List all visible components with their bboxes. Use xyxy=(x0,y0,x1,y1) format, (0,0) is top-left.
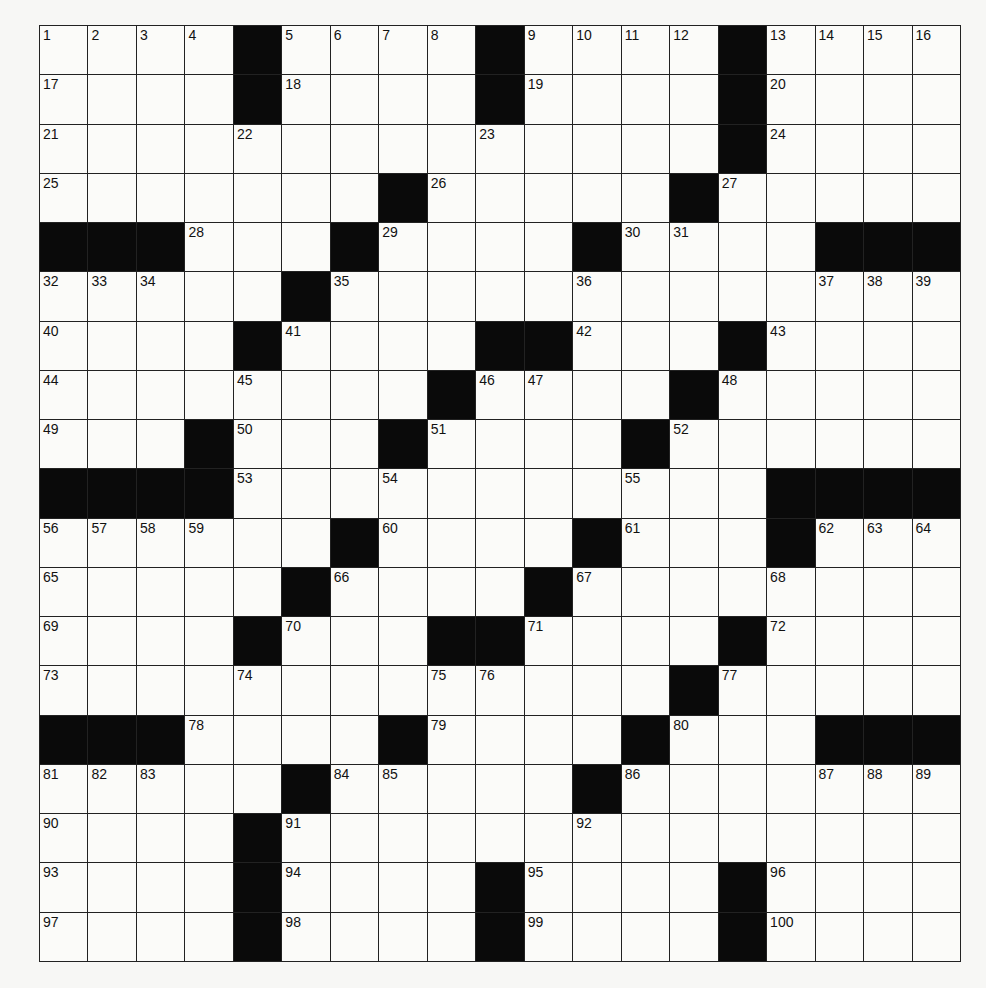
grid-cell[interactable] xyxy=(864,617,911,665)
grid-cell[interactable] xyxy=(331,75,378,123)
grid-cell[interactable] xyxy=(816,814,863,862)
grid-cell[interactable] xyxy=(913,75,960,123)
grid-cell[interactable]: 16 xyxy=(913,26,960,74)
grid-cell[interactable] xyxy=(622,322,669,370)
grid-cell[interactable]: 99 xyxy=(525,913,572,961)
grid-cell[interactable] xyxy=(719,272,766,320)
grid-cell[interactable]: 64 xyxy=(913,519,960,567)
grid-cell[interactable] xyxy=(573,469,620,517)
grid-cell[interactable]: 53 xyxy=(234,469,281,517)
grid-cell[interactable] xyxy=(670,125,717,173)
grid-cell[interactable]: 98 xyxy=(282,913,329,961)
grid-cell[interactable]: 47 xyxy=(525,371,572,419)
grid-cell[interactable] xyxy=(88,568,135,616)
grid-cell[interactable]: 10 xyxy=(573,26,620,74)
grid-cell[interactable] xyxy=(525,469,572,517)
grid-cell[interactable]: 6 xyxy=(331,26,378,74)
grid-cell[interactable]: 44 xyxy=(40,371,87,419)
grid-cell[interactable]: 79 xyxy=(428,716,475,764)
grid-cell[interactable] xyxy=(913,913,960,961)
grid-cell[interactable] xyxy=(864,666,911,714)
grid-cell[interactable] xyxy=(719,223,766,271)
grid-cell[interactable]: 57 xyxy=(88,519,135,567)
grid-cell[interactable]: 90 xyxy=(40,814,87,862)
grid-cell[interactable] xyxy=(864,371,911,419)
grid-cell[interactable]: 85 xyxy=(379,765,426,813)
grid-cell[interactable]: 28 xyxy=(185,223,232,271)
grid-cell[interactable] xyxy=(525,716,572,764)
grid-cell[interactable] xyxy=(767,174,814,222)
grid-cell[interactable]: 18 xyxy=(282,75,329,123)
grid-cell[interactable]: 83 xyxy=(137,765,184,813)
grid-cell[interactable]: 65 xyxy=(40,568,87,616)
grid-cell[interactable] xyxy=(331,174,378,222)
grid-cell[interactable] xyxy=(88,371,135,419)
grid-cell[interactable] xyxy=(913,814,960,862)
grid-cell[interactable] xyxy=(428,913,475,961)
grid-cell[interactable] xyxy=(913,666,960,714)
grid-cell[interactable] xyxy=(185,272,232,320)
grid-cell[interactable]: 22 xyxy=(234,125,281,173)
grid-cell[interactable] xyxy=(864,420,911,468)
grid-cell[interactable] xyxy=(767,666,814,714)
grid-cell[interactable]: 15 xyxy=(864,26,911,74)
grid-cell[interactable]: 91 xyxy=(282,814,329,862)
grid-cell[interactable] xyxy=(137,371,184,419)
grid-cell[interactable] xyxy=(428,272,475,320)
grid-cell[interactable] xyxy=(88,420,135,468)
grid-cell[interactable] xyxy=(428,814,475,862)
grid-cell[interactable] xyxy=(622,666,669,714)
grid-cell[interactable] xyxy=(331,863,378,911)
grid-cell[interactable] xyxy=(913,371,960,419)
grid-cell[interactable] xyxy=(525,814,572,862)
grid-cell[interactable]: 46 xyxy=(476,371,523,419)
grid-cell[interactable]: 26 xyxy=(428,174,475,222)
grid-cell[interactable]: 49 xyxy=(40,420,87,468)
grid-cell[interactable] xyxy=(137,420,184,468)
grid-cell[interactable]: 89 xyxy=(913,765,960,813)
grid-cell[interactable] xyxy=(719,568,766,616)
grid-cell[interactable] xyxy=(379,863,426,911)
grid-cell[interactable] xyxy=(670,863,717,911)
grid-cell[interactable] xyxy=(476,420,523,468)
grid-cell[interactable] xyxy=(428,223,475,271)
grid-cell[interactable] xyxy=(379,322,426,370)
grid-cell[interactable] xyxy=(525,420,572,468)
grid-cell[interactable]: 62 xyxy=(816,519,863,567)
grid-cell[interactable] xyxy=(234,519,281,567)
grid-cell[interactable]: 56 xyxy=(40,519,87,567)
grid-cell[interactable]: 14 xyxy=(816,26,863,74)
grid-cell[interactable] xyxy=(88,322,135,370)
grid-cell[interactable] xyxy=(234,272,281,320)
grid-cell[interactable]: 4 xyxy=(185,26,232,74)
grid-cell[interactable] xyxy=(719,420,766,468)
grid-cell[interactable]: 43 xyxy=(767,322,814,370)
grid-cell[interactable]: 23 xyxy=(476,125,523,173)
grid-cell[interactable]: 48 xyxy=(719,371,766,419)
grid-cell[interactable] xyxy=(282,716,329,764)
grid-cell[interactable]: 40 xyxy=(40,322,87,370)
grid-cell[interactable] xyxy=(331,469,378,517)
grid-cell[interactable]: 20 xyxy=(767,75,814,123)
grid-cell[interactable] xyxy=(767,223,814,271)
grid-cell[interactable] xyxy=(913,125,960,173)
grid-cell[interactable] xyxy=(816,420,863,468)
grid-cell[interactable] xyxy=(622,371,669,419)
grid-cell[interactable] xyxy=(719,716,766,764)
grid-cell[interactable] xyxy=(476,765,523,813)
grid-cell[interactable]: 17 xyxy=(40,75,87,123)
grid-cell[interactable] xyxy=(282,371,329,419)
grid-cell[interactable] xyxy=(670,272,717,320)
grid-cell[interactable] xyxy=(816,174,863,222)
grid-cell[interactable] xyxy=(282,174,329,222)
grid-cell[interactable] xyxy=(185,322,232,370)
grid-cell[interactable] xyxy=(379,617,426,665)
grid-cell[interactable] xyxy=(185,863,232,911)
grid-cell[interactable] xyxy=(331,913,378,961)
grid-cell[interactable]: 11 xyxy=(622,26,669,74)
grid-cell[interactable] xyxy=(767,716,814,764)
grid-cell[interactable] xyxy=(719,519,766,567)
grid-cell[interactable] xyxy=(185,666,232,714)
grid-cell[interactable] xyxy=(622,617,669,665)
grid-cell[interactable] xyxy=(525,519,572,567)
